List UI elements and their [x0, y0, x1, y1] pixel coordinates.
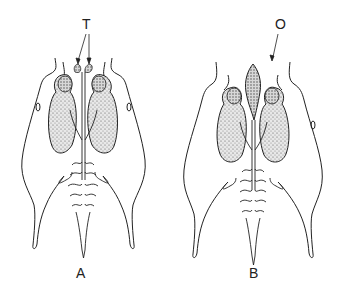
panel-label-a: A	[76, 265, 85, 281]
paired-organ-right	[85, 64, 92, 72]
paired-organ-left	[74, 64, 81, 72]
anatomy-diagram-b	[172, 0, 344, 295]
panel-b: O B	[172, 0, 344, 295]
panel-a: T A	[0, 0, 172, 295]
panel-label-b: B	[249, 265, 258, 281]
annotation-o: O	[275, 16, 286, 32]
anatomy-diagram-a	[0, 0, 172, 295]
annotation-t: T	[82, 16, 91, 32]
median-organ	[245, 64, 260, 120]
